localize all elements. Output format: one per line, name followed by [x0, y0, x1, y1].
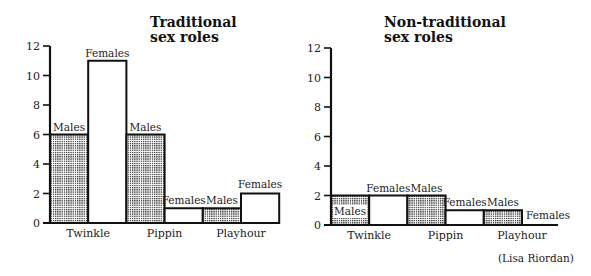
category-label-playhour: Playhour	[216, 227, 266, 240]
bar-label-females: Females	[85, 47, 129, 59]
chart-title-line: sex roles	[384, 29, 453, 45]
y-tick-label: 12	[307, 42, 321, 55]
bar-label-males: Males	[411, 182, 443, 194]
bar-label-males: Males	[334, 205, 366, 217]
bar-label-females: Females	[526, 209, 570, 221]
bar-label-males: Males	[53, 121, 85, 133]
bar-label-females: Females	[238, 178, 282, 190]
category-label-twinkle: Twinkle	[347, 229, 391, 242]
y-tick-label: 4	[314, 160, 321, 173]
y-tick-label: 2	[33, 188, 40, 201]
y-tick-label: 6	[314, 131, 321, 144]
bar-males-playhour	[484, 210, 522, 225]
bar-label-females: Females	[162, 194, 206, 206]
y-tick-label: 0	[33, 217, 40, 230]
bar-males-pippin	[407, 196, 445, 226]
category-label-twinkle: Twinkle	[66, 227, 110, 240]
chart-title-line: sex roles	[150, 29, 219, 45]
y-tick-label: 0	[314, 219, 321, 232]
bar-males-pippin	[126, 135, 164, 224]
bar-label-females: Females	[366, 182, 410, 194]
y-tick-label: 4	[33, 158, 40, 171]
non-traditional-sex-roles-chart: Non-traditionalsex rolesMalesFemalesTwin…	[307, 14, 570, 242]
category-label-pippin: Pippin	[428, 229, 464, 242]
bar-females-pippin	[446, 210, 484, 225]
bar-females-pippin	[165, 208, 203, 223]
y-tick-label: 8	[314, 101, 321, 114]
bar-label-males: Males	[206, 194, 238, 206]
y-tick-label: 6	[33, 129, 40, 142]
bar-females-twinkle	[369, 196, 407, 226]
bar-label-males: Males	[487, 196, 519, 208]
y-tick-label: 10	[307, 72, 321, 85]
chart-canvas: Traditionalsex rolesMalesFemalesTwinkleM…	[0, 0, 591, 276]
y-tick-label: 10	[26, 70, 40, 83]
bar-females-playhour	[241, 194, 279, 224]
y-tick-label: 2	[314, 190, 321, 203]
bar-males-playhour	[203, 208, 241, 223]
credit-text: (Lisa Riordan)	[498, 252, 574, 264]
chart-title-line: Traditional	[150, 14, 237, 30]
traditional-sex-roles-chart: Traditionalsex rolesMalesFemalesTwinkleM…	[26, 14, 282, 240]
y-tick-label: 12	[26, 40, 40, 53]
category-label-playhour: Playhour	[497, 229, 547, 242]
bar-males-twinkle	[50, 135, 88, 224]
chart-title-line: Non-traditional	[384, 14, 506, 30]
category-label-pippin: Pippin	[147, 227, 183, 240]
y-tick-label: 8	[33, 99, 40, 112]
bar-label-females: Females	[443, 196, 487, 208]
bar-females-twinkle	[88, 61, 126, 223]
bar-label-males: Males	[130, 121, 162, 133]
